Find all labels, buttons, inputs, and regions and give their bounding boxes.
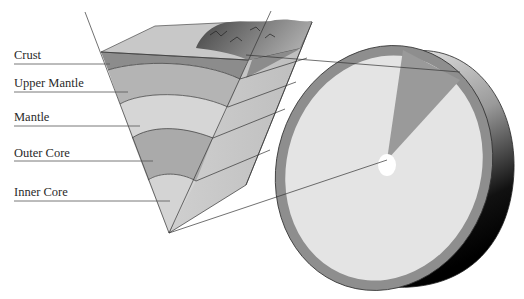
label-inner-core: Inner Core <box>14 185 68 199</box>
label-mantle: Mantle <box>14 110 50 124</box>
label-upper-mantle: Upper Mantle <box>14 76 84 90</box>
label-outer-core: Outer Core <box>14 146 70 160</box>
label-crust: Crust <box>14 48 42 62</box>
disc-center <box>378 154 396 176</box>
earth-layers-diagram: Crust Upper Mantle Mantle Outer Core Inn… <box>0 0 524 299</box>
